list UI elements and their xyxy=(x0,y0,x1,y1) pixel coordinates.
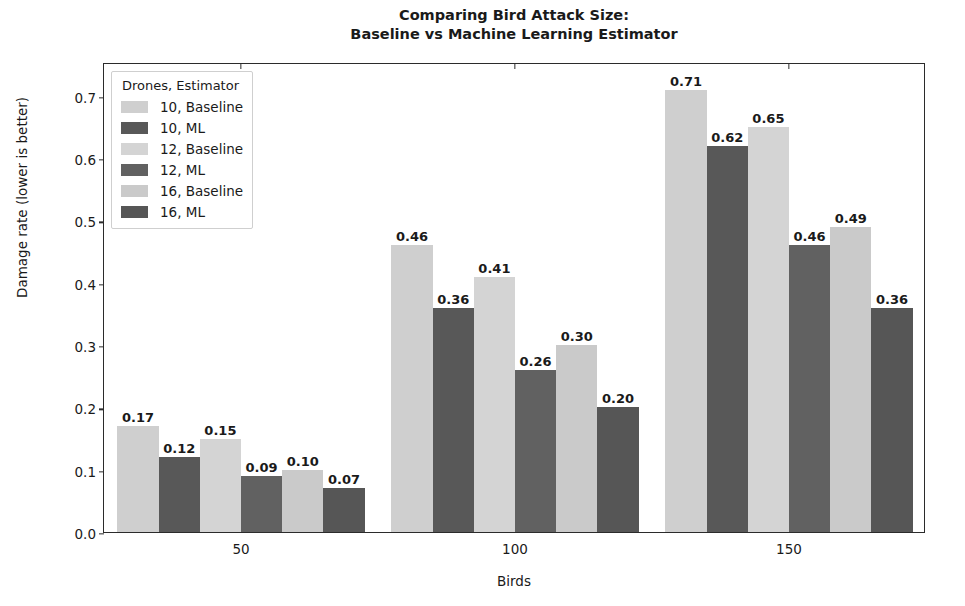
chart-title-line-2: Baseline vs Machine Learning Estimator xyxy=(103,25,925,44)
chart-legend: Drones, Estimator 10, Baseline10, ML12, … xyxy=(111,71,253,229)
x-tick-label: 100 xyxy=(502,541,528,557)
y-tick-label: 0.2 xyxy=(75,401,96,417)
x-tick-label: 150 xyxy=(776,541,802,557)
bar-value-label: 0.07 xyxy=(328,472,360,487)
y-tick-mark xyxy=(99,409,104,410)
bar xyxy=(665,90,706,532)
y-tick-mark xyxy=(99,471,104,472)
y-tick-mark xyxy=(99,222,104,223)
bar xyxy=(282,470,323,532)
bar xyxy=(433,308,474,532)
legend-item[interactable]: 10, ML xyxy=(121,117,243,138)
bar-value-label: 0.17 xyxy=(122,410,154,425)
legend-item-label: 10, ML xyxy=(160,120,205,136)
bar-value-label: 0.46 xyxy=(794,229,826,244)
bar-value-label: 0.49 xyxy=(835,211,867,226)
legend-title: Drones, Estimator xyxy=(122,78,243,93)
bar-value-label: 0.46 xyxy=(396,229,428,244)
legend-item[interactable]: 10, Baseline xyxy=(121,96,243,117)
bar xyxy=(391,245,432,532)
bar xyxy=(707,146,748,532)
y-axis-label: Damage rate (lower is better) xyxy=(14,97,30,298)
legend-item[interactable]: 12, Baseline xyxy=(121,138,243,159)
y-tick-mark xyxy=(99,97,104,98)
legend-swatch-icon xyxy=(121,206,148,218)
bar xyxy=(597,407,638,532)
bar-value-label: 0.71 xyxy=(670,74,702,89)
bar-value-label: 0.36 xyxy=(876,292,908,307)
chart-figure: Comparing Bird Attack Size: Baseline vs … xyxy=(0,0,965,606)
x-tick-mark xyxy=(514,64,515,69)
y-tick-label: 0.6 xyxy=(75,152,96,168)
y-tick-label: 0.5 xyxy=(75,214,96,230)
legend-swatch-icon xyxy=(121,122,148,134)
bar-value-label: 0.15 xyxy=(204,423,236,438)
plot-inner: 0.00.10.20.30.40.50.60.7 50100150 0.170.… xyxy=(104,64,924,532)
bar-value-label: 0.62 xyxy=(711,130,743,145)
bar xyxy=(556,345,597,532)
x-tick-mark xyxy=(788,64,789,69)
legend-swatch-icon xyxy=(121,143,148,155)
bar xyxy=(159,457,200,532)
y-tick-mark xyxy=(99,533,104,534)
y-tick-mark xyxy=(99,159,104,160)
bar xyxy=(871,308,912,532)
legend-item-label: 16, ML xyxy=(160,204,205,220)
bar xyxy=(789,245,830,532)
y-tick-label: 0.0 xyxy=(75,526,96,542)
chart-title: Comparing Bird Attack Size: Baseline vs … xyxy=(103,6,925,44)
y-tick-label: 0.3 xyxy=(75,339,96,355)
legend-item-label: 10, Baseline xyxy=(160,99,243,115)
bar xyxy=(474,277,515,532)
legend-item-label: 12, ML xyxy=(160,162,205,178)
bar-value-label: 0.36 xyxy=(437,292,469,307)
x-tick-label: 50 xyxy=(232,541,249,557)
x-tick-mark xyxy=(240,64,241,69)
bar-value-label: 0.65 xyxy=(752,111,784,126)
y-tick-mark xyxy=(99,284,104,285)
y-tick-label: 0.1 xyxy=(75,464,96,480)
bar xyxy=(117,426,158,532)
legend-swatch-icon xyxy=(121,101,148,113)
legend-swatch-icon xyxy=(121,185,148,197)
bar-value-label: 0.30 xyxy=(561,329,593,344)
y-tick-label: 0.7 xyxy=(75,90,96,106)
bar xyxy=(200,439,241,532)
bar-value-label: 0.09 xyxy=(246,460,278,475)
legend-item[interactable]: 16, Baseline xyxy=(121,180,243,201)
bar xyxy=(830,227,871,532)
bar xyxy=(241,476,282,532)
legend-items: 10, Baseline10, ML12, Baseline12, ML16, … xyxy=(121,96,243,222)
x-axis-label: Birds xyxy=(103,573,925,589)
bar xyxy=(515,370,556,532)
legend-swatch-icon xyxy=(121,164,148,176)
bar-value-label: 0.26 xyxy=(520,354,552,369)
bar-value-label: 0.12 xyxy=(163,441,195,456)
legend-item[interactable]: 16, ML xyxy=(121,201,243,222)
legend-item-label: 16, Baseline xyxy=(160,183,243,199)
bar xyxy=(748,127,789,532)
chart-title-line-1: Comparing Bird Attack Size: xyxy=(103,6,925,25)
bar-value-label: 0.41 xyxy=(478,261,510,276)
bar xyxy=(323,488,364,532)
bar-value-label: 0.20 xyxy=(602,391,634,406)
plot-area: 0.00.10.20.30.40.50.60.7 50100150 0.170.… xyxy=(103,63,925,533)
y-tick-mark xyxy=(99,346,104,347)
legend-item-label: 12, Baseline xyxy=(160,141,243,157)
legend-item[interactable]: 12, ML xyxy=(121,159,243,180)
y-tick-label: 0.4 xyxy=(75,277,96,293)
bar-value-label: 0.10 xyxy=(287,454,319,469)
